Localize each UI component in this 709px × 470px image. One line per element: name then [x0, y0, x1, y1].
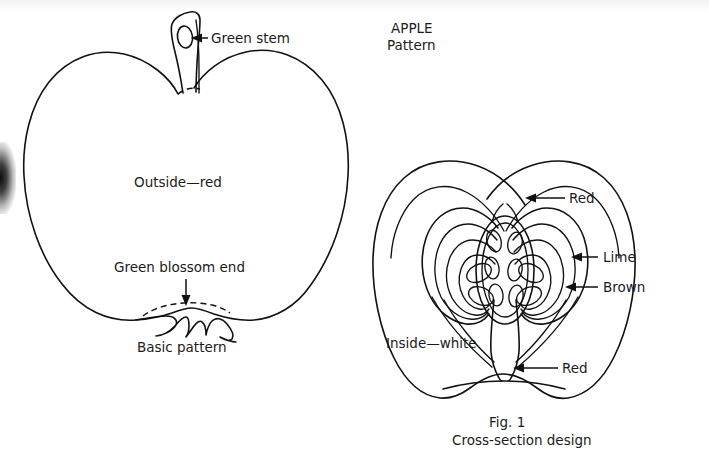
diagram-canvas: APPLE Pattern Green stem Outside—red Gre…	[0, 0, 709, 470]
label-green-stem: Green stem	[211, 30, 290, 46]
label-green-blossom-end: Green blossom end	[114, 259, 245, 275]
apple-stem	[171, 12, 200, 93]
label-lime: Lime	[603, 249, 636, 265]
label-inside-white: Inside—white	[386, 335, 477, 351]
cs-center-seed-5	[488, 283, 505, 307]
cs-base-line	[443, 381, 565, 389]
cross-section-group	[373, 161, 635, 398]
cs-right-seed-1	[516, 260, 547, 287]
label-red-top: Red	[569, 190, 595, 206]
diagram-page: APPLE Pattern Green stem Outside—red Gre…	[0, 0, 709, 470]
cs-outer-outline	[373, 161, 635, 398]
caption-line-1: Fig. 1	[489, 414, 525, 430]
cs-brown-arrow	[565, 283, 576, 292]
cs-flesh-line-right-2	[516, 300, 566, 362]
cs-lime-arrow	[571, 253, 582, 262]
cs-flesh-line-left	[432, 297, 492, 367]
cs-center-seed-3	[483, 256, 501, 280]
cs-flesh-line-left-2	[444, 300, 494, 362]
label-outside-red: Outside—red	[134, 174, 222, 190]
title-line-1: APPLE	[391, 20, 433, 36]
cs-flesh-line-right	[518, 297, 578, 367]
title-line-2: Pattern	[387, 37, 436, 53]
label-red-bottom: Red	[562, 360, 588, 376]
cs-core-stalk-left	[491, 300, 502, 381]
caption-line-2: Cross-section design	[452, 432, 592, 448]
apple-stem-hole	[176, 25, 194, 49]
label-basic-pattern: Basic pattern	[137, 339, 227, 355]
cs-skin-inner-left	[391, 187, 504, 258]
cs-left-seed-1	[464, 260, 495, 287]
blossom-leader-arrow	[182, 295, 191, 306]
label-brown: Brown	[603, 279, 645, 295]
cs-center-seed-4	[506, 258, 524, 282]
